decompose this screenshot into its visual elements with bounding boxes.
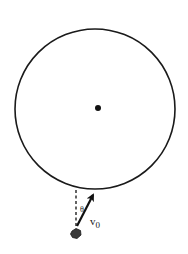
diagram-canvas: θ v0 [0, 0, 188, 254]
planet-circle [15, 29, 175, 189]
angle-theta-label: θ [80, 205, 84, 214]
planet-center-dot [95, 105, 101, 111]
projectile-object-icon [71, 229, 82, 239]
velocity-v0-label: v0 [90, 215, 101, 230]
velocity-subscript: 0 [96, 220, 101, 230]
